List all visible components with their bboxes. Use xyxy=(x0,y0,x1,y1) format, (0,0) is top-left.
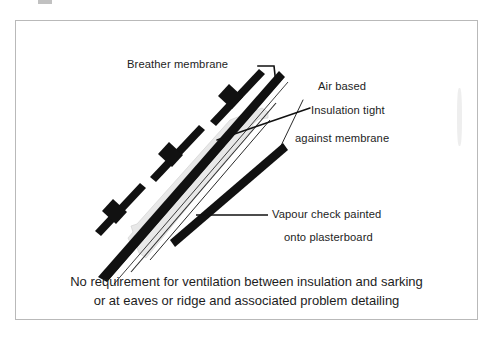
screenshot-page: Breather membrane Air based Insulation t… xyxy=(0,0,500,338)
breather-membrane-line-inner xyxy=(114,82,288,284)
label-vapour-check-painted: Vapour check painted xyxy=(272,209,381,221)
label-insulation-tight: Insulation tight xyxy=(311,105,385,117)
label-against-membrane: against membrane xyxy=(295,133,389,145)
label-breather-membrane: Breather membrane xyxy=(127,59,228,71)
sarking-board-line xyxy=(131,103,276,272)
figure-caption: No requirement for ventilation between i… xyxy=(15,272,478,310)
figure-caption-line-2: or at eaves or ridge and associated prob… xyxy=(15,291,478,310)
batten-block-middle xyxy=(158,142,183,167)
figure-caption-line-1: No requirement for ventilation between i… xyxy=(15,272,478,291)
label-onto-plasterboard: onto plasterboard xyxy=(284,232,373,244)
label-air-based: Air based xyxy=(318,81,366,93)
batten-block-upper xyxy=(218,84,243,109)
